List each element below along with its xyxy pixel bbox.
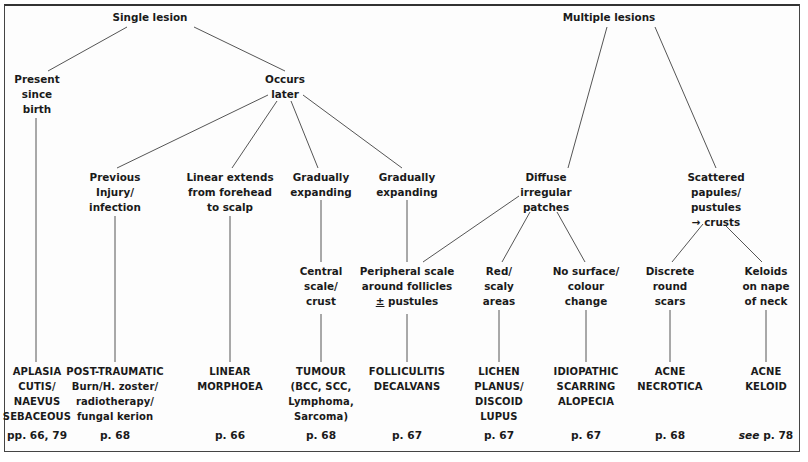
page-ref-label: pp. 66, 79	[7, 429, 67, 441]
node-discrete-round-scars: Discrete round scars	[646, 264, 695, 309]
edge-single-to-since_birth	[48, 27, 127, 71]
node-label: LINEAR	[197, 364, 263, 379]
page-ref-label: p. 67	[571, 429, 601, 441]
node-label: patches	[520, 200, 571, 215]
edge-diffuse-to-red_scaly	[502, 212, 530, 262]
page-ref-acne-necrotica: p. 68	[655, 428, 685, 443]
node-label: ACNE	[745, 364, 787, 379]
node-label: CUTIS/	[3, 379, 71, 394]
node-label: Injury/	[89, 185, 141, 200]
page-ref-folliculitis: p. 67	[392, 428, 422, 443]
node-label: irregular	[520, 185, 571, 200]
node-label: birth	[14, 102, 59, 117]
node-label: Gradually	[376, 170, 437, 185]
node-label: → crusts	[687, 215, 744, 230]
node-label: DISCOID	[474, 394, 523, 409]
diagnosis-acne-keloid: ACNE KELOID	[745, 364, 787, 394]
node-label: of neck	[742, 294, 789, 309]
node-label: NECROTICA	[637, 379, 702, 394]
node-label: expanding	[376, 185, 437, 200]
page-ref-post-traumatic: p. 68	[100, 428, 130, 443]
page-ref-label: p. 67	[484, 429, 514, 441]
edge-occurs_later-to-grad_exp_1	[291, 101, 318, 168]
node-label: Occurs	[265, 72, 305, 87]
page-ref-linear-morphoea: p. 66	[215, 428, 245, 443]
node-label: (BCC, SCC,	[288, 379, 354, 394]
node-label: scaly	[483, 279, 515, 294]
node-label: Peripheral scale	[360, 264, 455, 279]
diagnosis-post-traumatic: POST-TRAUMATIC Burn/H. zoster/ radiother…	[66, 364, 163, 424]
page-ref-idiopathic: p. 67	[571, 428, 601, 443]
node-label: Keloids	[742, 264, 789, 279]
node-label: scars	[646, 294, 695, 309]
node-label: fungal kerion	[66, 409, 163, 424]
node-label: FOLLICULITIS	[369, 364, 445, 379]
node-keloids-nape: Keloids on nape of neck	[742, 264, 789, 309]
node-label: infection	[89, 200, 141, 215]
node-label: LUPUS	[474, 409, 523, 424]
node-label: Gradually	[290, 170, 351, 185]
node-label: Discrete	[646, 264, 695, 279]
node-previous-injury: Previous Injury/ infection	[89, 170, 141, 215]
edge-occurs_later-to-previous_injury	[117, 95, 268, 168]
edge-multiple-to-diffuse	[568, 27, 607, 168]
node-label: around follicles	[360, 279, 455, 294]
page-ref-label: p. 68	[306, 429, 336, 441]
node-label: from forehead	[186, 185, 273, 200]
node-label: Sarcoma)	[288, 409, 354, 424]
node-single-lesion: Single lesion	[113, 10, 188, 25]
page-ref-label: p. 68	[655, 429, 685, 441]
node-label: ± pustules	[360, 294, 455, 309]
node-label: Red/	[483, 264, 515, 279]
node-label: pustules	[687, 200, 744, 215]
node-red-scaly: Red/ scaly areas	[483, 264, 515, 309]
diagnosis-linear-morphoea: LINEAR MORPHOEA	[197, 364, 263, 394]
page-ref-label: p. 67	[392, 429, 422, 441]
edge-occurs_later-to-linear_extends	[232, 101, 277, 168]
node-label-part: pustules	[384, 295, 438, 307]
node-scattered-papules: Scattered papules/ pustules → crusts	[687, 170, 744, 230]
node-label: TUMOUR	[288, 364, 354, 379]
node-gradually-expanding-2: Gradually expanding	[376, 170, 437, 200]
node-label: Central	[300, 264, 343, 279]
edge-diffuse-to-peripheral_scale	[423, 196, 519, 262]
node-label: SCARRING	[554, 379, 619, 394]
node-label: round	[646, 279, 695, 294]
page-ref-aplasia: pp. 66, 79	[7, 428, 67, 443]
node-label: later	[265, 87, 305, 102]
node-label: SEBACEOUS	[3, 409, 71, 424]
node-label: crust	[300, 294, 343, 309]
diagnosis-lichen-planus: LICHEN PLANUS/ DISCOID LUPUS	[474, 364, 523, 424]
diagnosis-folliculitis-decalvans: FOLLICULITIS DECALVANS	[369, 364, 445, 394]
diagnosis-acne-necrotica: ACNE NECROTICA	[637, 364, 702, 394]
node-label: change	[553, 294, 620, 309]
page-ref-label: p. 78	[759, 429, 793, 441]
edge-diffuse-to-no_surface	[557, 212, 585, 262]
edge-scattered-to-keloids_nape	[726, 226, 762, 262]
node-label: MORPHOEA	[197, 379, 263, 394]
node-peripheral-scale: Peripheral scale around follicles ± pust…	[360, 264, 455, 309]
node-occurs-later: Occurs later	[265, 72, 305, 102]
node-label: on nape	[742, 279, 789, 294]
node-label: Previous	[89, 170, 141, 185]
node-label: to scalp	[186, 200, 273, 215]
node-label: Scattered	[687, 170, 744, 185]
node-label: papules/	[687, 185, 744, 200]
node-label: since	[14, 87, 59, 102]
node-no-surface-change: No surface/ colour change	[553, 264, 620, 309]
node-label: Diffuse	[520, 170, 571, 185]
node-label: Burn/H. zoster/	[66, 379, 163, 394]
page-ref-acne-keloid: see p. 78	[739, 428, 793, 443]
see-prefix: see	[739, 429, 760, 441]
node-label: DECALVANS	[369, 379, 445, 394]
node-label: PLANUS/	[474, 379, 523, 394]
diagnosis-idiopathic-scarring: IDIOPATHIC SCARRING ALOPECIA	[554, 364, 619, 409]
node-label: KELOID	[745, 379, 787, 394]
node-label: LICHEN	[474, 364, 523, 379]
page-ref-tumour: p. 68	[306, 428, 336, 443]
node-central-scale: Central scale/ crust	[300, 264, 343, 309]
edge-multiple-to-scattered	[655, 27, 716, 168]
node-label: expanding	[290, 185, 351, 200]
node-label: scale/	[300, 279, 343, 294]
edge-single-to-occurs_later	[194, 27, 285, 71]
